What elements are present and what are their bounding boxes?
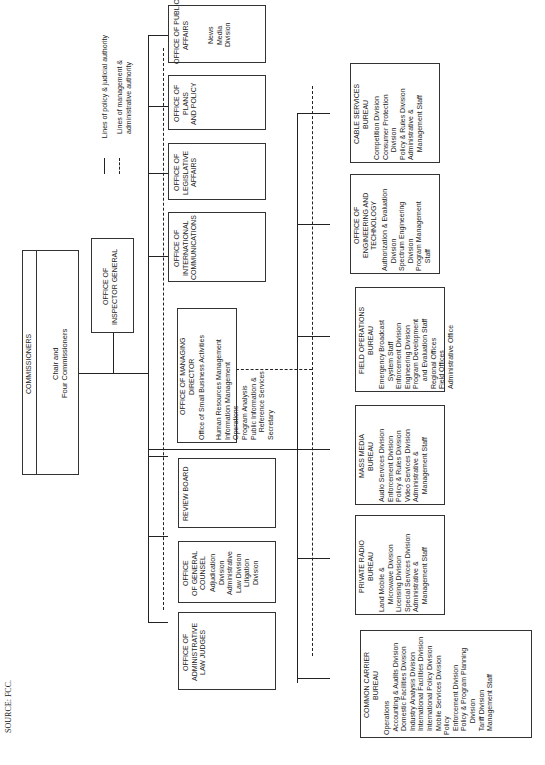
bureau-cable-services: CABLE SERVICES BUREAU Competition Divisi… <box>350 63 440 163</box>
commissioners-body: Chair and Four Commissioners <box>51 251 69 476</box>
source-note: SOURCE: FCC. <box>4 680 13 733</box>
office-title: OFFICE OF INTERNATIONAL COMMUNICATIONS <box>173 213 199 283</box>
office-international-communications: OFFICE OF INTERNATIONAL COMMUNICATIONS <box>168 212 266 282</box>
bureau-title: COMMON CARRIER BUREAU <box>363 631 380 739</box>
office-plans-policy: OFFICE OF PLANS AND POLICY <box>168 75 266 130</box>
bureau-field-operations: FIELD OPERATIONS BUREAU Emergency Broadc… <box>355 287 445 392</box>
bureau-mass-media: MASS MEDIA BUREAU Audio Services Divisio… <box>355 405 445 505</box>
bureau-body: Emergency Broadcast System Staff Enforce… <box>378 294 455 389</box>
bureau-title: MASS MEDIA BUREAU <box>358 406 375 506</box>
bureau-body: Competition Division Consumer Protection… <box>373 70 425 160</box>
commissioners-connector <box>79 373 149 374</box>
branch <box>148 622 168 623</box>
bureau-title: FIELD OPERATIONS BUREAU <box>358 288 375 393</box>
legend-solid-line <box>104 158 105 174</box>
ig-connector <box>113 333 114 373</box>
office-title: REVIEW BOARD <box>182 459 191 529</box>
branch <box>148 536 168 537</box>
bureau-body: Audio Services Division Enforcement Divi… <box>378 412 430 502</box>
branch <box>148 456 168 457</box>
branch <box>297 224 330 225</box>
office-title: OFFICE OF GENERAL COUNSEL <box>182 542 208 604</box>
office-title: OFFICE OF PLANS AND POLICY <box>173 76 199 131</box>
branch <box>148 106 168 107</box>
commissioners-box: COMMISSIONERS Chair and Four Commissione… <box>22 250 79 475</box>
bureau-body: Operations Accounting & Audits Division … <box>383 635 495 735</box>
office-title: OFFICE OF MANAGING DIRECTOR <box>179 309 196 444</box>
commissioners-title: COMMISSIONERS <box>25 251 34 476</box>
bureau-title: OFFICE OF ENGINEERING AND TECHNOLOGY <box>353 175 379 275</box>
bureau-private-radio: PRIVATE RADIO BUREAU Land Mobile & Micro… <box>355 515 445 615</box>
office-title: OFFICE OF PUBLIC AFFAIRS <box>173 6 190 64</box>
bureau-engineering-technology: OFFICE OF ENGINEERING AND TECHNOLOGY Aut… <box>350 174 440 274</box>
office-body: Office of Small Business Activities Huma… <box>198 315 275 440</box>
office-admin-law-judges: OFFICE OF ADMINISTRATIVE LAW JUDGES <box>178 612 276 690</box>
office-public-affairs: OFFICE OF PUBLIC AFFAIRS News Media Divi… <box>168 5 266 63</box>
office-title: OFFICE OF LEGISLATIVE AFFAIRS <box>173 144 199 201</box>
office-title: OFFICE OF ADMINISTRATIVE LAW JUDGES <box>182 613 208 691</box>
bureau-body: Authorization & Evaluation Division Spec… <box>381 181 433 271</box>
bureau-connector <box>148 449 298 450</box>
inspector-general-title: OFFICE OF INSPECTOR GENERAL <box>102 239 119 334</box>
inspector-general-box: OFFICE OF INSPECTOR GENERAL <box>91 238 134 333</box>
legend-dashed-label: Lines of management & administrative aut… <box>116 60 133 134</box>
branch <box>297 449 330 450</box>
bureau-dashed-spine <box>312 86 313 656</box>
legend-solid-label: Lines of policy & judicial authority <box>101 35 110 138</box>
branch <box>297 113 330 114</box>
office-general-counsel: OFFICE OF GENERAL COUNSEL Adjudication D… <box>178 541 276 603</box>
branch <box>148 256 168 257</box>
staff-spine <box>148 35 149 622</box>
branch <box>297 558 330 559</box>
legend-dashed-line <box>119 158 120 174</box>
office-legislative-affairs: OFFICE OF LEGISLATIVE AFFAIRS <box>168 143 266 200</box>
bureau-body: Land Mobile & Microwave Division Licensi… <box>378 522 430 612</box>
branch <box>297 336 330 337</box>
bureau-common-carrier: COMMON CARRIER BUREAU Operations Account… <box>360 630 532 738</box>
office-body: News Media Division <box>207 6 233 64</box>
bureau-title: CABLE SERVICES BUREAU <box>353 64 370 164</box>
bureau-title: PRIVATE RADIO BUREAU <box>358 516 375 616</box>
office-managing-director: OFFICE OF MANAGING DIRECTOR Office of Sm… <box>177 308 237 443</box>
office-review-board: REVIEW BOARD <box>178 458 276 528</box>
branch <box>148 35 168 36</box>
office-body: Adjudication Division Administrative Law… <box>209 542 261 604</box>
bureau-spine <box>297 113 298 683</box>
branch <box>148 173 168 174</box>
staff-dashed-spine <box>163 48 164 610</box>
branch <box>297 678 330 679</box>
